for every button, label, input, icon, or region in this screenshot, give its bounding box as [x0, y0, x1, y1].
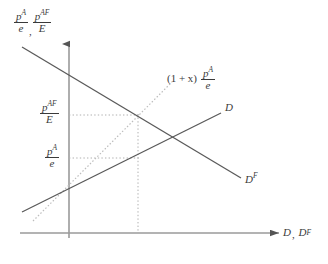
diagram-canvas	[0, 0, 328, 264]
price-marker-paf-e: pAF E	[40, 100, 59, 126]
price-marker-pa-e: pA e	[45, 144, 59, 170]
y-axis-label: pA e , pAF E	[14, 9, 51, 35]
x-axis-label: D, DF	[283, 227, 311, 238]
y-axis-label-second-fraction: pAF E	[33, 9, 52, 35]
curve-label-foreign-demand: DF	[245, 172, 258, 185]
curve-label-tariff-inclusive-price: (1 + x) pA e	[167, 66, 215, 92]
curve-label-domestic-supply: D	[225, 102, 233, 113]
economics-diagram-figure: pA e , pAF E D, DF pAF E pA e (1	[0, 0, 328, 264]
y-axis-label-separator: ,	[28, 26, 33, 37]
y-axis-label-first-fraction: pA e	[14, 9, 28, 35]
